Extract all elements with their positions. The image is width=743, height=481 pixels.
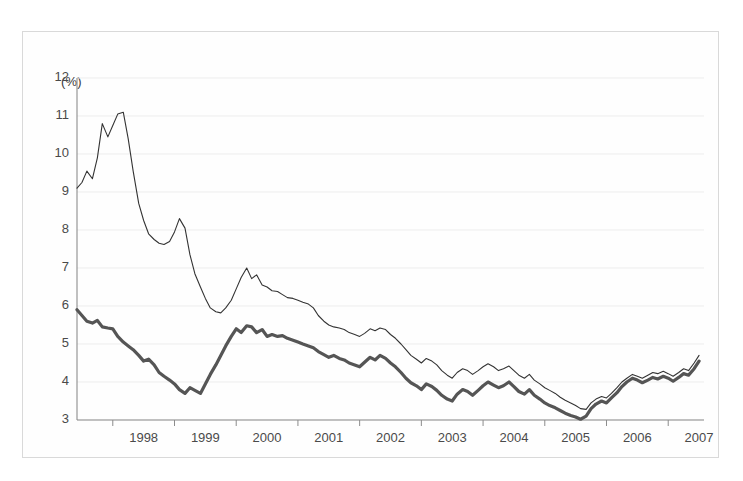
data-series-group (77, 112, 699, 419)
x-tick-label: 1998 (116, 430, 172, 445)
x-tick-label: 2003 (424, 430, 480, 445)
gridlines-group (77, 78, 704, 420)
y-tick-label: 5 (43, 335, 69, 350)
y-tick-label: 3 (43, 411, 69, 426)
x-axis-tick-marks (113, 420, 668, 426)
chart-plot-svg (23, 32, 720, 459)
y-tick-label: 6 (43, 297, 69, 312)
chart-frame: (%) 1211109876543 1998199920002001200220… (22, 31, 719, 458)
y-tick-label: 12 (43, 69, 69, 84)
x-tick-label: 2004 (486, 430, 542, 445)
x-tick-label: 2001 (301, 430, 357, 445)
figure-root: (%) 1211109876543 1998199920002001200220… (0, 0, 743, 481)
y-tick-label: 11 (43, 107, 69, 122)
y-tick-label: 7 (43, 259, 69, 274)
x-tick-label: 2005 (548, 430, 604, 445)
x-tick-label: 2002 (363, 430, 419, 445)
x-tick-label: 2007 (671, 430, 727, 445)
x-tick-label: 2006 (609, 430, 665, 445)
series-line-lower-series (77, 310, 699, 419)
y-tick-label: 4 (43, 373, 69, 388)
x-tick-label: 1999 (177, 430, 233, 445)
y-tick-label: 8 (43, 221, 69, 236)
y-tick-label: 9 (43, 183, 69, 198)
y-tick-label: 10 (43, 145, 69, 160)
series-line-upper-series (77, 112, 699, 409)
x-tick-label: 2000 (239, 430, 295, 445)
